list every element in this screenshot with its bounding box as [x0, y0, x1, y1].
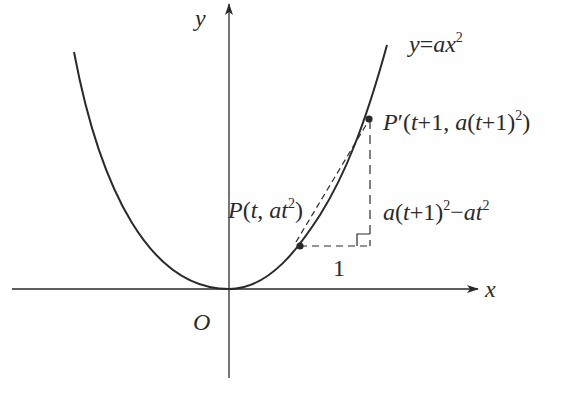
run-label: 1	[333, 255, 345, 281]
point-P-prime	[365, 115, 372, 122]
p-prime-paren: (	[467, 109, 475, 135]
rise-exp1: 2	[443, 198, 450, 213]
curve-label-exp: 2	[456, 30, 463, 45]
parabola-diagram: y x O y=ax2 P′(t+1, a(t+1)2) P(t, at2) a…	[0, 0, 563, 414]
p-name: P	[227, 197, 243, 223]
p-prime-plus1b: +1)	[482, 109, 516, 135]
point-P-label: P(t, at2)	[227, 196, 303, 223]
p-exp: 2	[288, 196, 295, 211]
x-axis-label: x	[484, 276, 496, 302]
p-prime-exp: 2	[515, 108, 522, 123]
y-axis-label: y	[193, 5, 206, 31]
p-prime-prime: ′(	[398, 109, 411, 135]
rise-exp2: 2	[482, 198, 489, 213]
right-angle-mark	[357, 234, 370, 246]
curve-label-ax: ax	[433, 31, 456, 57]
p-prime-a: a	[455, 109, 467, 135]
point-P-prime-label: P′(t+1, a(t+1)2)	[382, 108, 530, 135]
parabola-curve	[74, 45, 387, 289]
rise-label: a(t+1)2−at2	[383, 198, 489, 225]
curve-label-y: y	[407, 31, 420, 57]
secant-line	[296, 115, 372, 242]
p-open: (	[243, 197, 251, 223]
p-comma: ,	[257, 197, 269, 223]
p-at: at	[269, 197, 289, 223]
rise-plus1: +1)	[410, 199, 444, 225]
p-prime-close: )	[522, 109, 530, 135]
rise-minus: −	[450, 199, 464, 225]
p-close: )	[295, 197, 303, 223]
point-P	[296, 242, 303, 249]
curve-label-eq: =	[420, 31, 434, 57]
curve-equation-label: y=ax2	[407, 30, 463, 57]
p-prime-name: P	[382, 109, 398, 135]
origin-label: O	[193, 309, 210, 335]
p-prime-plus1: +1,	[418, 109, 456, 135]
rise-a: a	[383, 199, 395, 225]
rise-at: at	[464, 199, 484, 225]
rise-paren: (	[395, 199, 403, 225]
